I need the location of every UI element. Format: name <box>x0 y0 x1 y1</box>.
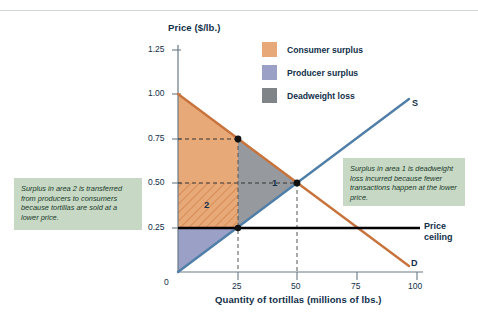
supply-curve-label: S <box>412 98 418 108</box>
y-tick-label-100: 1.00 <box>148 88 165 98</box>
legend-swatch-deadweight-loss <box>262 88 277 103</box>
callout-left-area-2: Surplus in area 2 is transferred from pr… <box>14 178 142 230</box>
chart-canvas <box>0 0 478 313</box>
price-ceiling-label-line1: Price <box>424 221 453 232</box>
price-ceiling-label: Price ceiling <box>424 221 453 243</box>
y-tick-label-025: 0.25 <box>148 222 165 232</box>
chart-figure: Price ($/lb.) 1.25 1.00 0.75 0.50 0.25 0… <box>0 0 478 313</box>
point-q25-p075 <box>235 136 242 143</box>
legend-label-producer-surplus: Producer surplus <box>287 68 358 78</box>
area-label-1-deadweight: 1 <box>272 177 277 188</box>
y-tick-label-075: 0.75 <box>148 133 165 143</box>
x-axis-title: Quantity of tortillas (millions of lbs.) <box>215 294 382 305</box>
x-tick-label-100: 100 <box>408 281 422 291</box>
legend-label-consumer-surplus: Consumer surplus <box>287 45 363 55</box>
y-tick-label-050: 0.50 <box>148 177 165 187</box>
y-tick-label-125: 1.25 <box>148 44 165 54</box>
point-equilibrium <box>294 180 301 187</box>
y-tick-label-0: 0 <box>164 277 169 287</box>
point-q25-ceiling <box>235 225 241 231</box>
deadweight-loss-region <box>238 139 297 228</box>
area-label-2-transfer: 2 <box>204 199 209 210</box>
legend-swatch-producer-surplus <box>262 65 277 80</box>
legend-label-deadweight-loss: Deadweight loss <box>287 91 355 101</box>
x-tick-label-75: 75 <box>351 281 360 291</box>
legend-swatch-consumer-surplus <box>262 42 277 57</box>
demand-curve-label: D <box>411 258 418 268</box>
price-ceiling-label-line2: ceiling <box>424 232 453 243</box>
callout-right-area-1: Surplus in area 1 is deadweight loss inc… <box>343 158 465 206</box>
x-tick-label-25: 25 <box>232 281 241 291</box>
x-tick-label-50: 50 <box>291 281 300 291</box>
y-axis-title: Price ($/lb.) <box>168 22 221 33</box>
